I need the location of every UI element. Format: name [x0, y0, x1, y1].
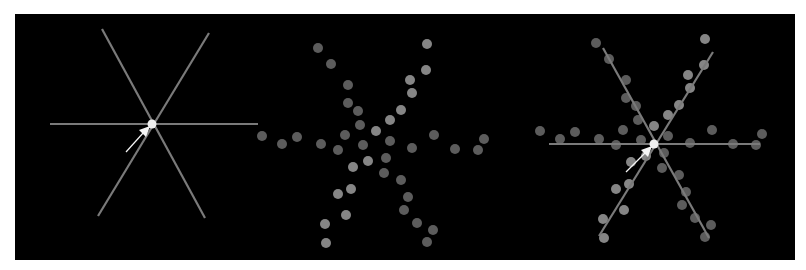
- data-point: [385, 136, 395, 146]
- data-point: [555, 134, 565, 144]
- data-point: [407, 143, 417, 153]
- data-point: [422, 39, 432, 49]
- data-point: [594, 134, 604, 144]
- cursor-tail: [126, 132, 144, 152]
- data-point: [611, 184, 621, 194]
- data-point: [343, 80, 353, 90]
- data-point: [706, 220, 716, 230]
- data-point: [570, 127, 580, 137]
- data-point: [618, 125, 628, 135]
- data-point: [379, 168, 389, 178]
- data-point: [535, 126, 545, 136]
- data-point: [353, 106, 363, 116]
- data-point: [313, 43, 323, 53]
- data-point: [363, 156, 373, 166]
- data-point: [396, 105, 406, 115]
- data-point: [358, 140, 368, 150]
- data-point: [649, 121, 659, 131]
- data-point: [292, 132, 302, 142]
- data-point: [657, 163, 667, 173]
- data-point: [326, 59, 336, 69]
- data-point: [405, 75, 415, 85]
- data-point: [421, 65, 431, 75]
- data-point: [473, 145, 483, 155]
- data-point: [355, 120, 365, 130]
- data-point: [479, 134, 489, 144]
- data-point: [677, 200, 687, 210]
- data-point: [450, 144, 460, 154]
- figure-canvas: [0, 0, 806, 270]
- data-point: [663, 131, 673, 141]
- data-point: [381, 153, 391, 163]
- data-point: [707, 125, 717, 135]
- data-point: [333, 145, 343, 155]
- data-point: [399, 205, 409, 215]
- data-point: [346, 184, 356, 194]
- data-point: [320, 219, 330, 229]
- data-point: [348, 162, 358, 172]
- data-point: [316, 139, 326, 149]
- data-point: [591, 38, 601, 48]
- data-point: [396, 175, 406, 185]
- data-point: [371, 126, 381, 136]
- data-point: [385, 115, 395, 125]
- data-point: [429, 130, 439, 140]
- data-point: [340, 130, 350, 140]
- data-point: [619, 205, 629, 215]
- data-point: [422, 237, 432, 247]
- data-point: [407, 88, 417, 98]
- panel-points: [257, 39, 489, 248]
- data-point: [700, 34, 710, 44]
- data-point: [333, 189, 343, 199]
- data-point: [277, 139, 287, 149]
- panel-lines: [50, 29, 258, 218]
- data-point: [403, 192, 413, 202]
- data-point: [626, 157, 636, 167]
- data-point: [683, 70, 693, 80]
- data-point: [257, 131, 267, 141]
- data-point: [428, 225, 438, 235]
- data-point: [321, 238, 331, 248]
- data-point: [341, 210, 351, 220]
- panel-overlay: [535, 34, 767, 243]
- data-point: [412, 218, 422, 228]
- data-point: [757, 129, 767, 139]
- data-point: [343, 98, 353, 108]
